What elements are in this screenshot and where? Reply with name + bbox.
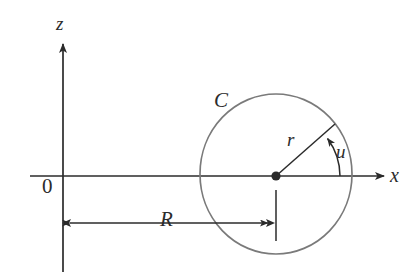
- circle-c-label: C: [214, 90, 228, 111]
- radius-line: [276, 124, 335, 176]
- origin-label: 0: [42, 176, 53, 197]
- radius-label: r: [287, 130, 294, 149]
- z-axis-label: z: [56, 14, 63, 33]
- diagram-canvas: [0, 0, 419, 272]
- x-axis-label: x: [390, 165, 399, 185]
- figure-root: z x 0 C r u R: [0, 0, 419, 272]
- circle-center-dot: [271, 171, 280, 180]
- angle-label: u: [336, 142, 346, 161]
- dimension-r-label: R: [160, 209, 173, 230]
